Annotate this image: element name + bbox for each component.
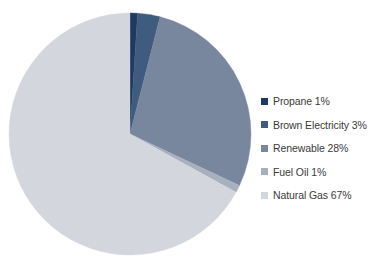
legend-swatch-icon-natural-gas — [261, 192, 268, 199]
legend-item-propane[interactable]: Propane 1% — [261, 92, 379, 110]
legend-label-natural-gas: Natural Gas 67% — [273, 189, 351, 201]
pie-chart-figure: Propane 1% Brown Electricity 3% Renewabl… — [0, 0, 379, 271]
pie-chart-svg — [0, 0, 258, 271]
legend-swatch-icon-propane — [261, 98, 268, 105]
legend-label-propane: Propane 1% — [273, 95, 330, 107]
legend-label-fuel-oil: Fuel Oil 1% — [273, 166, 326, 178]
legend-item-fuel-oil[interactable]: Fuel Oil 1% — [261, 163, 379, 181]
legend-item-brown-electricity[interactable]: Brown Electricity 3% — [261, 116, 379, 134]
chart-legend: Propane 1% Brown Electricity 3% Renewabl… — [261, 92, 379, 210]
pie-chart-plot-area — [0, 0, 258, 271]
legend-swatch-icon-renewable — [261, 145, 268, 152]
pie-slice-group — [9, 13, 251, 255]
legend-label-renewable: Renewable 28% — [273, 142, 348, 154]
legend-item-renewable[interactable]: Renewable 28% — [261, 139, 379, 157]
legend-item-natural-gas[interactable]: Natural Gas 67% — [261, 186, 379, 204]
legend-swatch-icon-brown-electricity — [261, 121, 268, 128]
legend-label-brown-electricity: Brown Electricity 3% — [273, 119, 367, 131]
legend-swatch-icon-fuel-oil — [261, 168, 268, 175]
